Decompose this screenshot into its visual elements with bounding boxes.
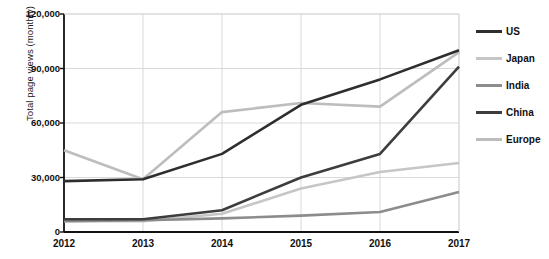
legend-item-europe[interactable]: Europe [476,126,549,153]
legend-label: US [506,26,520,37]
line-chart: Total page views (monthly) 030,00060,000… [0,0,549,259]
legend-swatch-japan [476,57,502,60]
legend-label: Japan [506,53,535,64]
legend-label: China [506,107,534,118]
series-line-india [64,192,459,221]
x-axis-tick-label: 2014 [211,238,233,249]
plot-area [0,0,549,259]
x-axis-tick-label: 2012 [53,238,75,249]
legend-label: Europe [506,134,540,145]
series-line-china [64,67,459,220]
legend-swatch-india [476,84,502,87]
x-axis-tick-label: 2015 [290,238,312,249]
legend-swatch-china [476,111,502,114]
series-line-us [64,50,459,181]
data-series [64,50,459,221]
chart-legend: USJapanIndiaChinaEurope [476,18,549,153]
x-axis-tick-label: 2013 [132,238,154,249]
legend-swatch-us [476,30,502,33]
x-axis-tick-label: 2016 [369,238,391,249]
grid-lines [64,14,459,232]
legend-item-china[interactable]: China [476,99,549,126]
legend-item-us[interactable]: US [476,18,549,45]
legend-item-india[interactable]: India [476,72,549,99]
x-axis-tick-label: 2017 [448,238,470,249]
legend-label: India [506,80,529,91]
legend-swatch-europe [476,138,502,141]
legend-item-japan[interactable]: Japan [476,45,549,72]
